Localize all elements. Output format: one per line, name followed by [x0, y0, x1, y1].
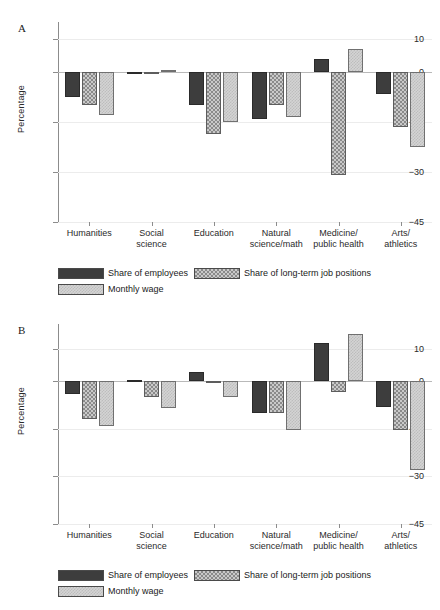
x-axis-tick	[152, 524, 153, 528]
gridline	[58, 429, 432, 430]
x-axis-category-line: Arts/	[356, 228, 440, 239]
x-axis-tick	[401, 222, 402, 226]
bar-a-2-longterm	[206, 72, 221, 134]
bar-b-2-longterm	[206, 381, 221, 383]
gridline	[58, 122, 432, 123]
legend-item-longterm: Share of long-term job positions	[194, 570, 377, 581]
legend-label-wage: Monthly wage	[108, 586, 164, 596]
y-axis-tick	[53, 122, 58, 123]
x-axis-category-line: athletics	[356, 239, 440, 250]
bar-a-0-wage	[99, 72, 114, 115]
panel-b-letter: B	[18, 324, 25, 336]
bar-a-5-longterm	[393, 72, 408, 127]
x-axis-tick	[401, 524, 402, 528]
y-axis-tick	[53, 429, 58, 430]
panel-b-plot-area: 100−15−30−45HumanitiesSocialscienceEduca…	[58, 324, 432, 524]
panel-b-y-axis-label: Percentage	[16, 366, 26, 456]
bar-b-3-longterm	[269, 381, 284, 413]
bar-a-5-wage	[410, 72, 425, 147]
y-axis-tick-label: −30	[384, 167, 424, 177]
x-axis-category-line: science	[107, 541, 197, 552]
bar-a-3-employees	[252, 72, 267, 119]
x-axis-tick	[214, 524, 215, 528]
bar-b-4-longterm	[331, 381, 346, 392]
panel-b-y-axis	[58, 324, 59, 524]
legend-swatch-longterm-icon	[194, 268, 240, 279]
x-axis-tick	[276, 222, 277, 226]
x-axis-tick	[89, 222, 90, 226]
bar-a-0-longterm	[82, 72, 97, 105]
x-axis-tick	[339, 524, 340, 528]
gridline	[58, 39, 432, 40]
x-axis-tick	[276, 524, 277, 528]
gridline	[58, 476, 432, 477]
x-axis-category-line: science	[107, 239, 197, 250]
bar-b-5-wage	[410, 381, 425, 470]
y-axis-tick-label: 10	[384, 344, 424, 354]
legend-item-wage: Monthly wage	[58, 284, 170, 295]
x-axis-tick	[339, 222, 340, 226]
gridline	[58, 524, 432, 525]
legend-swatch-employees-icon	[58, 268, 104, 279]
panel-b: B Percentage 100−15−30−45HumanitiesSocia…	[0, 310, 440, 607]
bar-b-5-employees	[376, 381, 391, 406]
bar-b-3-employees	[252, 381, 267, 413]
bar-a-0-employees	[65, 72, 80, 97]
legend-swatch-wage-icon	[58, 284, 104, 295]
legend-label-wage: Monthly wage	[108, 284, 164, 294]
x-axis-tick	[89, 524, 90, 528]
legend-label-longterm: Share of long-term job positions	[244, 570, 371, 580]
bar-a-2-wage	[223, 72, 238, 122]
legend-label-longterm: Share of long-term job positions	[244, 268, 371, 278]
y-axis-tick	[53, 72, 58, 73]
bar-a-1-longterm	[144, 72, 159, 74]
gridline	[58, 172, 432, 173]
legend-label-employees: Share of employees	[108, 570, 188, 580]
bar-b-1-employees	[127, 380, 142, 382]
panel-a-plot-area: 100−15−30−45HumanitiesSocialscienceEduca…	[58, 22, 432, 222]
bar-b-0-wage	[99, 381, 114, 425]
y-axis-tick	[53, 381, 58, 382]
bar-a-3-longterm	[269, 72, 284, 105]
y-axis-tick	[53, 524, 58, 525]
y-axis-tick	[53, 476, 58, 477]
legend-item-wage: Monthly wage	[58, 586, 170, 597]
bar-b-0-employees	[65, 381, 80, 394]
bar-a-4-longterm	[331, 72, 346, 175]
bar-a-3-wage	[286, 72, 301, 117]
bar-a-2-employees	[189, 72, 204, 105]
bar-b-5-longterm	[393, 381, 408, 430]
bar-b-2-employees	[189, 372, 204, 382]
y-axis-tick-label: 10	[384, 34, 424, 44]
legend-swatch-employees-icon	[58, 570, 104, 581]
y-axis-tick	[53, 39, 58, 40]
bar-a-1-employees	[127, 72, 142, 74]
gridline	[58, 222, 432, 223]
y-axis-tick	[53, 172, 58, 173]
panel-a-letter: A	[18, 22, 26, 34]
x-axis-tick	[152, 222, 153, 226]
x-axis-tick	[214, 222, 215, 226]
bar-a-4-employees	[314, 59, 329, 72]
bar-a-4-wage	[348, 49, 363, 72]
bar-a-1-wage	[161, 70, 176, 72]
x-axis-category-line: athletics	[356, 541, 440, 552]
legend-item-employees: Share of employees	[58, 570, 194, 581]
bar-b-3-wage	[286, 381, 301, 430]
legend-item-employees: Share of employees	[58, 268, 194, 279]
y-axis-tick-label: −30	[384, 471, 424, 481]
x-axis-category-label: Arts/athletics	[356, 530, 440, 552]
y-axis-tick-label: −45	[384, 519, 424, 529]
panel-a-legend: Share of employees Share of long-term jo…	[58, 266, 440, 298]
panel-a-y-axis-label: Percentage	[16, 64, 26, 154]
legend-swatch-wage-icon	[58, 586, 104, 597]
y-axis-tick	[53, 349, 58, 350]
bar-b-0-longterm	[82, 381, 97, 419]
y-axis-tick	[53, 222, 58, 223]
panel-a: A Percentage 100−15−30−45HumanitiesSocia…	[0, 8, 440, 305]
gridline	[58, 349, 432, 350]
legend-item-longterm: Share of long-term job positions	[194, 268, 377, 279]
bar-b-2-wage	[223, 381, 238, 397]
y-axis-tick-label: −45	[384, 217, 424, 227]
bar-a-5-employees	[376, 72, 391, 94]
